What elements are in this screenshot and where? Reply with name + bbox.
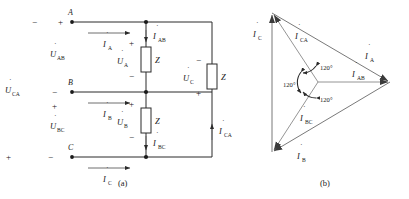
ph-iab-sub: AB [357,75,365,81]
ph-ica-sub: CA [300,37,308,43]
ph-iab-label: I [351,69,356,79]
source-voltage-uca: ˙ U CA [5,78,20,97]
phasor-phase-current-ibc [274,82,318,150]
caption-a: (a) [118,178,128,188]
angle-label-upper: 120° [320,64,333,71]
ibc-sub: BC [158,144,166,150]
z2-label: Z [155,116,160,126]
ph-ica-dot: ˙ [298,23,301,32]
z2-minus: − [129,132,134,142]
uab-label: U [50,49,57,59]
z1-label: Z [155,55,160,65]
ubc-label: U [50,121,57,131]
terminal-label-c: C [68,143,74,152]
source-voltage-uab: ˙ U AB [50,42,65,61]
node-junction-mid [144,90,148,94]
iab-sub: AB [158,37,166,43]
angle-arc-left [297,72,301,93]
iab-dot: ˙ [156,24,159,33]
circuit-diagram: A B C − + ˙ U AB ˙ U CA − + ˙ U BC + − [5,8,232,188]
ph-ic-sub: C [258,35,262,41]
caption-b: (b) [320,178,330,188]
ic-label: I [102,174,107,184]
node-junction-top [144,20,148,24]
ic-dot: ˙ [106,166,109,175]
source-voltage-ubc: ˙ U BC [50,114,65,133]
ubc-sub: BC [57,127,65,133]
sign-a-row-minus: − [32,17,37,27]
ia-sub: A [108,45,112,51]
phasor-label-ib: ˙ I B [296,143,306,163]
angle-label-lower: 120° [320,96,333,103]
load-impedance-2: Z + − ˙ U B ˙ I BC [117,99,166,150]
ph-ic-label: I [252,29,257,39]
phasor-phase-current-ica [274,15,318,82]
ica-sub: CA [224,132,232,138]
ib-dot: ˙ [106,101,109,110]
ph-ibc-sub: BC [305,119,313,125]
z1-minus: − [129,71,134,81]
ph-ibc-label: I [299,113,304,123]
uc-label: U [183,73,190,83]
sign-b-row-minus: − [52,87,57,97]
line-current-ia: ˙ I A [88,31,130,51]
ia-dot: ˙ [106,31,109,40]
ph-ia-sub: A [370,57,374,63]
line-current-ib: ˙ I B [88,101,130,121]
phasor-line-current-ib [274,82,390,151]
figure-container: A B C − + ˙ U AB ˙ U CA − + ˙ U BC + − [0,0,409,199]
ph-iab-dot: ˙ [355,61,358,70]
phasor-diagram: 120° 120° 120° ˙ I C ˙ I CA ˙ I A ˙ I AB [252,13,390,188]
z3-box [207,64,217,89]
z1-plus: + [129,38,134,48]
ib-sub: B [108,115,112,121]
ibc-dot: ˙ [156,131,159,140]
ph-ib-label: I [296,151,301,161]
node-junction-bottom [144,155,148,159]
ub-sub: B [124,123,128,129]
angle-label-left: 120° [283,81,296,88]
sign-c-row-minus: − [48,152,53,162]
phasor-label-ic: ˙ I C [252,21,262,41]
ua-label: U [117,56,124,66]
ph-ibc-dot: ˙ [303,105,306,114]
uab-sub: AB [57,55,65,61]
figure-svg: A B C − + ˙ U AB ˙ U CA − + ˙ U BC + − [0,0,409,199]
terminal-label-b: B [68,78,73,87]
z2-box [141,108,151,133]
uc-sub: C [190,79,194,85]
z1-box [141,47,151,72]
ub-label: U [117,117,124,127]
z3-label: Z [221,72,226,82]
ph-ia-dot: ˙ [368,43,371,52]
phasor-label-ia: ˙ I A [364,43,374,63]
ica-dot: ˙ [222,119,225,128]
ph-ib-sub: B [302,157,306,163]
uca-sub: CA [12,91,20,97]
ua-sub: A [124,62,128,68]
load-impedance-3: Z − + ˙ U C ˙ I CA [183,55,232,140]
terminal-label-a: A [67,8,73,17]
uca-label: U [5,85,12,95]
node-b [70,90,74,94]
ib-label: I [102,109,107,119]
z3-plus: + [196,88,201,98]
node-a [70,20,74,24]
ph-ic-dot: ˙ [256,21,259,30]
ic-sub: C [108,180,112,186]
ia-label: I [102,39,107,49]
sign-a-row-plus: + [58,17,63,27]
ph-ica-label: I [294,31,299,41]
z3-minus: − [196,55,201,65]
ph-ib-dot: ˙ [300,143,303,152]
z2-plus: + [129,99,134,109]
sign-c-row-plus: + [6,152,11,162]
sign-b-row-plus: + [52,101,57,111]
node-c [70,155,74,159]
ph-ia-label: I [364,51,369,61]
